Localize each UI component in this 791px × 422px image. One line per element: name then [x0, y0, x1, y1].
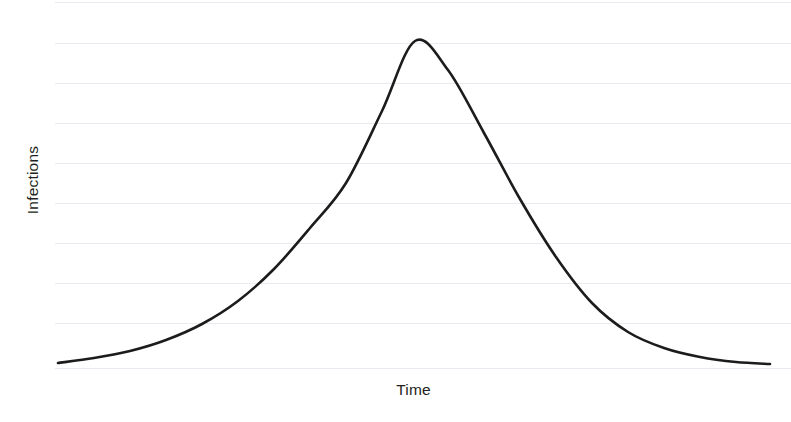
infection-curve-group [58, 40, 770, 364]
y-axis-label: Infections [24, 120, 44, 240]
epidemic-curve-chart: Infections Time [0, 0, 791, 422]
x-axis-label: Time [0, 381, 791, 399]
gridline-group [55, 3, 791, 369]
chart-canvas [0, 0, 791, 422]
infection-curve-line [58, 40, 770, 364]
